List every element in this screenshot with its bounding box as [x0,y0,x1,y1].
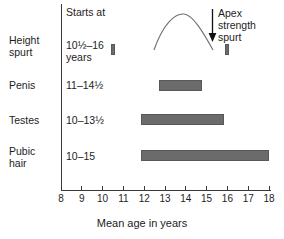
height-spurt-endpoint-marker [111,44,115,55]
height-spurt-endpoint-marker [225,44,229,55]
x-axis-tick [206,186,207,190]
apex-strength-spurt-annotation: Apex strength spurt [218,7,256,43]
range-bar [141,150,269,161]
x-axis-tick-label: 16 [222,194,233,204]
x-axis-tick [102,186,103,190]
row-label-penis: Penis [9,80,35,92]
puberty-timeline-chart: Starts at Height spurt Penis Testes Pubi… [0,0,284,239]
horizontal-axis-line [61,190,271,191]
x-axis-tick [144,186,145,190]
x-axis-tick-label: 12 [139,194,150,204]
x-axis-tick-label: 9 [79,194,85,204]
row-label-pubic-hair: Pubic hair [9,146,35,169]
x-axis-tick-label: 15 [201,194,212,204]
x-axis-tick [269,186,270,190]
x-axis-tick-label: 13 [159,194,170,204]
starts-at-height-spurt: 10½–16 years [66,40,104,63]
height-velocity-curve [154,14,213,50]
x-axis-tick-label: 8 [58,194,64,204]
x-axis-tick [185,186,186,190]
x-axis-tick [227,186,228,190]
vertical-axis-line [61,4,62,191]
x-axis-tick-label: 18 [263,194,274,204]
column-header-starts-at: Starts at [66,7,105,19]
x-axis-title: Mean age in years [0,217,284,229]
apex-arrow-head [209,33,217,42]
x-axis-tick-label: 11 [118,194,128,204]
x-axis-tick-label: 10 [97,194,108,204]
x-axis-tick-label: 14 [180,194,191,204]
x-axis-tick-label: 17 [243,194,254,204]
starts-at-penis: 11–14½ [66,80,103,92]
row-label-height-spurt: Height spurt [9,35,39,58]
starts-at-pubic-hair: 10–15 [66,151,95,163]
x-axis-tick [81,186,82,190]
x-axis-tick [123,186,124,190]
x-axis-tick [165,186,166,190]
row-label-testes: Testes [9,115,39,127]
x-axis-tick [61,186,62,190]
x-axis-tick [248,186,249,190]
starts-at-testes: 10–13½ [66,115,104,127]
range-bar [141,114,224,125]
range-bar [159,80,203,91]
